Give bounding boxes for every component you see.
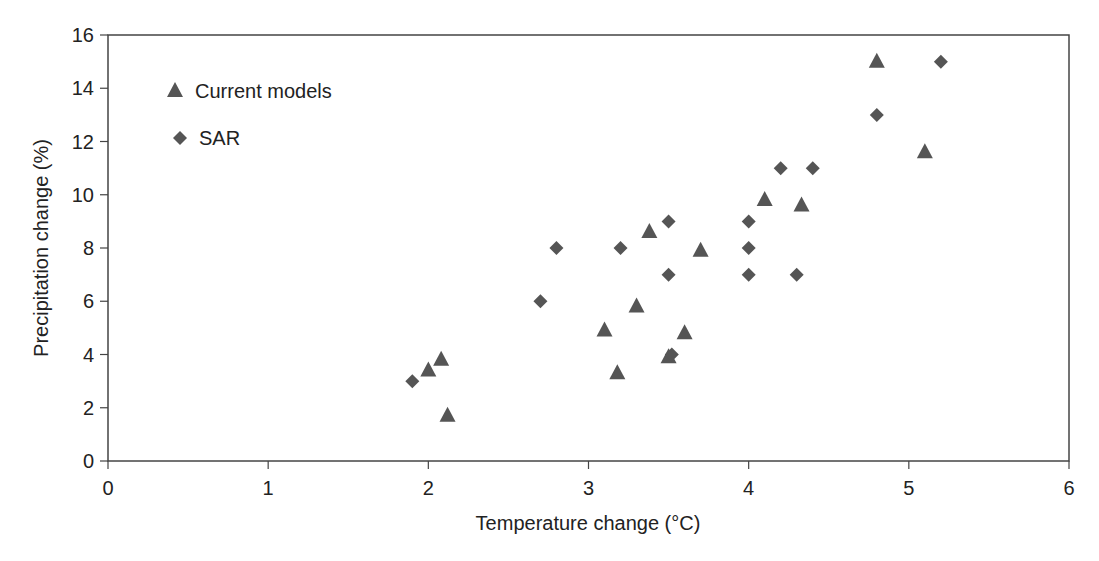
x-tick-label: 1 xyxy=(263,477,274,499)
data-points xyxy=(405,53,948,422)
diamond-marker-icon xyxy=(533,294,547,308)
triangle-marker-icon xyxy=(693,242,709,257)
triangle-marker-icon xyxy=(757,191,773,206)
y-tick-label: 16 xyxy=(72,24,94,46)
y-tick-label: 12 xyxy=(72,131,94,153)
legend-label-sar: SAR xyxy=(199,127,240,149)
x-tick-label: 6 xyxy=(1063,477,1074,499)
scatter-chart: 0246810121416 0123456 Temperature change… xyxy=(0,0,1099,561)
triangle-marker-icon xyxy=(420,361,436,376)
y-tick-label: 4 xyxy=(83,344,94,366)
x-axis-title: Temperature change (°C) xyxy=(476,512,701,534)
y-tick-label: 10 xyxy=(72,184,94,206)
triangle-marker-icon xyxy=(440,407,456,422)
triangle-marker-icon xyxy=(629,298,645,313)
y-tick-label: 0 xyxy=(83,450,94,472)
x-tick-label: 4 xyxy=(743,477,754,499)
triangle-marker-icon xyxy=(641,223,657,238)
y-tick-label: 2 xyxy=(83,397,94,419)
diamond-marker-icon xyxy=(742,268,756,282)
x-tick-label: 3 xyxy=(583,477,594,499)
y-axis-title: Precipitation change (%) xyxy=(30,139,52,357)
diamond-marker-icon xyxy=(934,55,948,69)
diamond-marker-icon xyxy=(790,268,804,282)
y-tick-label: 6 xyxy=(83,290,94,312)
diamond-marker-icon xyxy=(614,241,628,255)
legend-diamond-icon xyxy=(173,131,187,145)
y-tick-label: 8 xyxy=(83,237,94,259)
triangle-marker-icon xyxy=(597,322,613,337)
diamond-marker-icon xyxy=(806,161,820,175)
x-axis: 0123456 xyxy=(102,461,1074,499)
triangle-marker-icon xyxy=(433,351,449,366)
triangle-marker-icon xyxy=(869,53,885,68)
diamond-marker-icon xyxy=(742,241,756,255)
y-tick-label: 14 xyxy=(72,77,94,99)
diamond-marker-icon xyxy=(662,268,676,282)
diamond-marker-icon xyxy=(742,214,756,228)
diamond-marker-icon xyxy=(662,214,676,228)
diamond-marker-icon xyxy=(870,108,884,122)
diamond-marker-icon xyxy=(405,374,419,388)
diamond-marker-icon xyxy=(774,161,788,175)
triangle-marker-icon xyxy=(917,143,933,158)
x-tick-label: 0 xyxy=(102,477,113,499)
x-tick-label: 5 xyxy=(903,477,914,499)
triangle-marker-icon xyxy=(609,364,625,379)
diamond-marker-icon xyxy=(549,241,563,255)
legend-triangle-icon xyxy=(167,82,183,97)
triangle-marker-icon xyxy=(794,196,810,211)
y-axis: 0246810121416 xyxy=(72,24,108,472)
triangle-marker-icon xyxy=(677,324,693,339)
x-tick-label: 2 xyxy=(423,477,434,499)
legend-label-current-models: Current models xyxy=(195,80,332,102)
legend: Current models SAR xyxy=(167,80,332,149)
